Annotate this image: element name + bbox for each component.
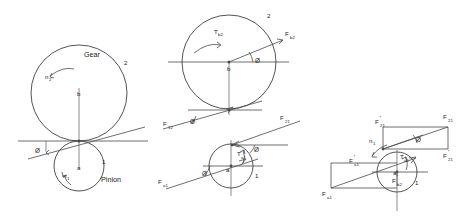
force-21-prime-right-prime: ' xyxy=(448,149,449,155)
force-21-prime-top-subscript: 21 xyxy=(380,123,385,128)
gear-free-body-center-label: b xyxy=(227,65,231,72)
gear-rotation-arc xyxy=(50,68,74,76)
gear-pressure-angle-label: Ø xyxy=(255,57,260,64)
pinion-free-body-number: 1 xyxy=(255,172,259,179)
force-b2-label: F xyxy=(285,30,289,37)
component-number-label: 1 xyxy=(415,179,419,186)
force-21-prime-right-label: F xyxy=(443,152,447,159)
force-12-pressure-angle-label: Ø xyxy=(190,118,195,125)
pinion-label: Pinion xyxy=(101,175,121,184)
force-a1-pressure-angle-label: Ø xyxy=(202,170,207,177)
pitch-point xyxy=(77,139,80,142)
force-b2-prime-prime: ' xyxy=(397,174,398,180)
force-b2-prime-label: F xyxy=(392,177,396,184)
pressure-angle-label: Ø xyxy=(35,147,40,154)
force-a1-line xyxy=(166,159,258,189)
line-of-action xyxy=(28,127,145,159)
component-pressure-angle-label: Ø xyxy=(416,136,421,143)
gear-free-body-number: 2 xyxy=(267,12,271,19)
pinion-number-label: 1 xyxy=(102,158,106,165)
force-a1-prime-label: F xyxy=(349,157,353,164)
gear-torque-subscript: b2 xyxy=(218,32,223,37)
force-a1-component-label: F xyxy=(322,190,326,197)
force-a1-prime-prime: ' xyxy=(354,154,355,160)
force-21-subscript: 21 xyxy=(448,118,453,123)
force-21-subscript: 21 xyxy=(285,119,290,124)
gear-center-label: b xyxy=(77,90,81,97)
component-speed-subscript: 1 xyxy=(373,141,376,146)
pinion-contact-point xyxy=(231,144,234,147)
force-12-subscript: 12 xyxy=(168,125,173,130)
force-21-label: F xyxy=(280,114,284,121)
force-a1-label: F xyxy=(158,178,162,185)
component-center-label: a xyxy=(393,169,397,176)
gear-contact-point xyxy=(228,109,231,112)
force-a1-subscript: a1 xyxy=(163,183,168,188)
force-12-line xyxy=(163,101,262,129)
force-21-prime-top-label: F xyxy=(375,118,379,125)
component-rotation-arc xyxy=(372,145,387,156)
gear-free-body-center xyxy=(228,61,231,64)
pinion-torque-subscript: a1 xyxy=(241,155,246,160)
force-b2-subscript: b2 xyxy=(290,35,295,40)
pinion-free-body-center-label: a xyxy=(226,166,230,173)
force-21-pressure-angle-label: Ø xyxy=(254,146,259,153)
force-21-prime-right-subscript: 21 xyxy=(448,157,453,162)
force-21-label: F xyxy=(443,113,447,120)
force-a1-prime-subscript: a1 xyxy=(354,162,359,167)
gear-torque-arc xyxy=(194,44,220,53)
gear-force-diagram-figure: Gear Pinion b a 2 1 n 2 n 1 Ø xyxy=(0,0,465,219)
pinion-speed-subscript: 1 xyxy=(67,176,70,181)
gear-number-label: 2 xyxy=(124,59,128,66)
force-b2-prime-subscript: b2 xyxy=(397,182,402,187)
force-21-prime-top-prime: ' xyxy=(380,115,381,121)
component-torque-subscript: a1 xyxy=(404,158,409,163)
gear-pressure-angle-arc xyxy=(249,52,253,62)
pinion-free-body-center xyxy=(230,165,233,168)
force-12-label: F xyxy=(163,120,167,127)
pinion-center-label: a xyxy=(77,164,81,171)
panel-2-free-bodies: T b2 b 2 F b2 F 12 F 21 F a1 a 1 T a1 Ø … xyxy=(158,12,300,196)
gear-label: Gear xyxy=(84,50,101,59)
panel-1-gear-pinion: Gear Pinion b a 2 1 n 2 n 1 Ø xyxy=(18,45,148,191)
force-a1-component-subscript: a1 xyxy=(327,195,332,200)
panel-3-force-components: F 21 ' F 21 F 21 ' F a1 ' F a1 F b2 ' a … xyxy=(322,113,453,211)
force-21-line xyxy=(232,121,300,145)
